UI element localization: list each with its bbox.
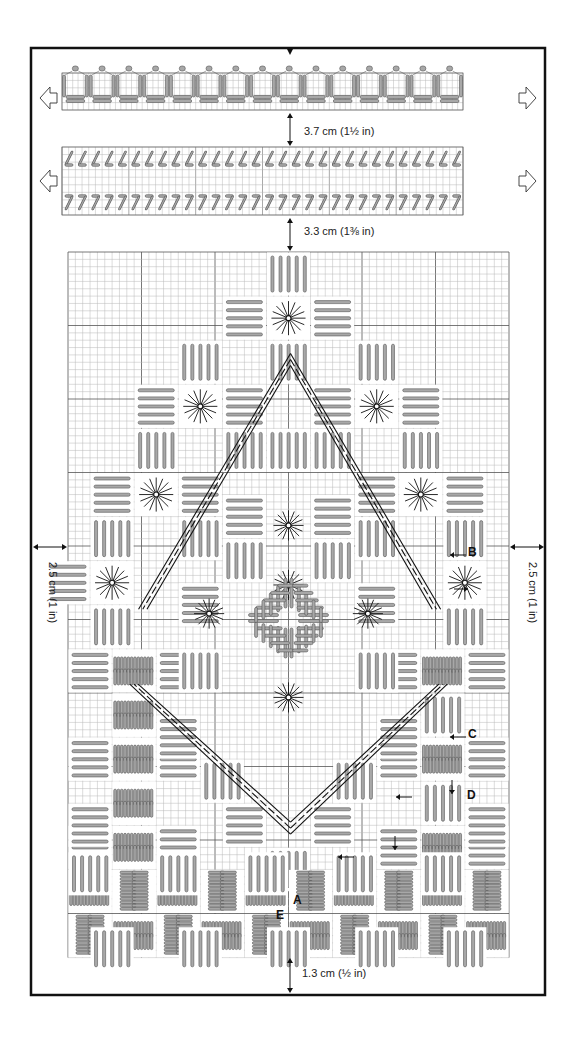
left-margin-label: 2.5 cm (1 in) [47, 562, 59, 623]
bottom-margin-label: 1.3 cm (½ in) [302, 967, 366, 979]
label-d: D [467, 788, 476, 802]
top-gap-label: 3.7 cm (1½ in) [304, 125, 374, 137]
label-c: C [468, 727, 477, 741]
zigzag-border-strip [62, 147, 463, 215]
right-margin-label: 2.5 cm (1 in) [527, 562, 539, 623]
second-gap-label: 3.3 cm (1⅜ in) [304, 225, 374, 237]
needlework-chart [0, 0, 580, 1037]
label-b: B [468, 545, 477, 559]
label-a: A [293, 893, 302, 907]
label-e: E [276, 908, 284, 922]
